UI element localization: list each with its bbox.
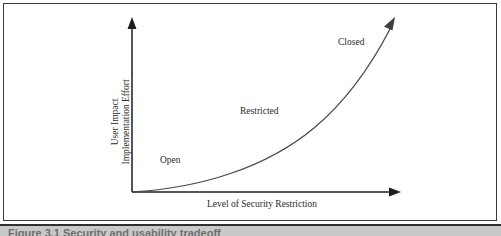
- arrow-up-icon: [128, 17, 137, 29]
- figure-root: Level of Security Restriction User Impac…: [0, 0, 501, 236]
- x-axis-title: Level of Security Restriction: [207, 199, 317, 209]
- arrow-right-icon: [389, 188, 401, 197]
- figure-caption-bar: Figure 3.1 Security and usability tradeo…: [0, 224, 501, 236]
- figure-caption-text: Figure 3.1 Security and usability tradeo…: [8, 227, 221, 236]
- annotation-closed: Closed: [338, 37, 365, 47]
- figure-panel: Level of Security Restriction User Impac…: [3, 3, 497, 221]
- annotation-restricted: Restricted: [240, 106, 279, 116]
- arrow-up-right-icon: [384, 17, 395, 31]
- annotation-open: Open: [160, 155, 181, 165]
- tradeoff-chart: Level of Security Restriction User Impac…: [4, 4, 498, 222]
- y-axis-title-line-1: User Impact: [110, 98, 120, 145]
- y-axis-title-line-2: Implementation Effort: [121, 79, 131, 164]
